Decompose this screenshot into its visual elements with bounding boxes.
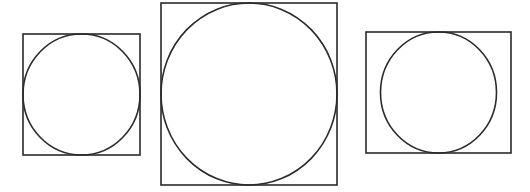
- large-inscribed-circle: [161, 3, 337, 185]
- shape-group-2: [161, 3, 337, 185]
- diagram-canvas: [0, 0, 530, 192]
- large-square: [161, 3, 337, 185]
- small-inscribed-circle: [23, 34, 140, 155]
- shape-group-1: [23, 34, 140, 155]
- wide-rectangle: [366, 32, 511, 153]
- shape-group-3: [366, 32, 511, 153]
- rectangle-inscribed-circle: [381, 32, 497, 153]
